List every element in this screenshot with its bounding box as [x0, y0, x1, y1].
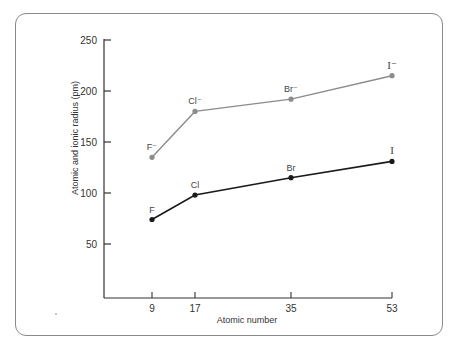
x-tick-label: 35: [285, 303, 297, 314]
point-label: I⁻: [387, 59, 397, 71]
point-label: Br: [287, 163, 296, 173]
point-label: F⁻: [147, 142, 158, 152]
scan-artifact-dot: [55, 313, 57, 315]
y-tick-label: 150: [80, 137, 97, 148]
x-axis-title: Atomic number: [217, 315, 278, 325]
x-axis: 9173553: [104, 292, 398, 314]
series-layer: F⁻Cl⁻Br⁻I⁻FClBrI: [147, 59, 397, 222]
line-chart: 50100150200250 9173553 Atomic number Ato…: [0, 0, 454, 344]
data-point: [149, 155, 154, 160]
point-label: Cl⁻: [188, 96, 202, 106]
y-axis-title: Atomic and ionic radius (pm): [70, 81, 80, 195]
point-label: Cl: [191, 180, 200, 190]
point-label: I: [390, 144, 394, 156]
y-tick-label: 250: [80, 35, 97, 46]
data-point: [192, 109, 197, 114]
point-label: Br⁻: [284, 84, 298, 94]
atomic-radius-series: FClBrI: [149, 144, 394, 222]
x-tick-label: 9: [149, 303, 155, 314]
data-point: [149, 217, 154, 222]
y-axis: 50100150200250: [80, 35, 111, 299]
x-tick-label: 53: [386, 303, 398, 314]
y-tick-label: 100: [80, 188, 97, 199]
data-point: [288, 175, 293, 180]
data-point: [288, 97, 293, 102]
data-point: [389, 159, 394, 164]
point-label: F: [149, 205, 155, 215]
y-tick-label: 50: [86, 239, 98, 250]
y-tick-label: 200: [80, 86, 97, 97]
ionic-radius-series: F⁻Cl⁻Br⁻I⁻: [147, 59, 397, 160]
data-point: [192, 192, 197, 197]
x-tick-label: 17: [189, 303, 201, 314]
data-point: [389, 73, 394, 78]
